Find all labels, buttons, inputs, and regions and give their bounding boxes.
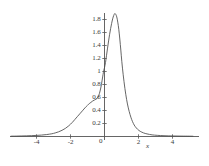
y-axis-tick-label: 1.4 <box>81 42 101 49</box>
y-axis-tick-label: 0.8 <box>81 81 101 88</box>
chart-figure: -4-224 0.20.40.60.811.21.41.61.8 0 x <box>0 0 209 166</box>
y-axis-tick-label: 1.2 <box>81 55 101 62</box>
y-axis-tick-label: 1 <box>81 68 101 75</box>
x-axis-tick-label: -2 <box>61 139 81 146</box>
x-axis-tick-label: -4 <box>27 139 47 146</box>
x-axis-tick-label: 4 <box>163 139 183 146</box>
y-axis-tick-label: 0.6 <box>81 94 101 101</box>
density-curve <box>11 14 193 137</box>
y-axis-tick-label: 0.4 <box>81 107 101 114</box>
y-axis-tick-label: 0.2 <box>81 120 101 127</box>
x-axis-label: x <box>146 143 149 150</box>
y-axis-tick-label: 1.8 <box>81 16 101 23</box>
origin-tick-label: 0 <box>99 138 102 145</box>
y-axis-tick-label: 1.6 <box>81 29 101 36</box>
